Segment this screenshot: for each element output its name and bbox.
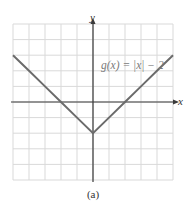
axes <box>11 18 179 182</box>
coordinate-plane: g(x) = |x| − 2 x y <box>0 0 186 204</box>
y-axis-label: y <box>89 11 95 23</box>
graph-figure: g(x) = |x| − 2 x y (a) <box>0 0 186 204</box>
x-axis-label: x <box>177 95 183 107</box>
figure-caption: (a) <box>0 188 186 200</box>
function-label: g(x) = |x| − 2 <box>101 59 164 72</box>
